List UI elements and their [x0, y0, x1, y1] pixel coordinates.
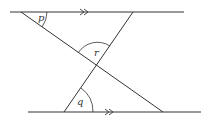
diagram-canvas: p r q: [0, 0, 212, 120]
angle-r-label: r: [94, 47, 100, 58]
transversal-b: [64, 12, 133, 112]
geometry-diagram: p r q: [0, 0, 212, 120]
angle-p-label: p: [38, 12, 45, 23]
angle-q-label: q: [77, 96, 83, 107]
